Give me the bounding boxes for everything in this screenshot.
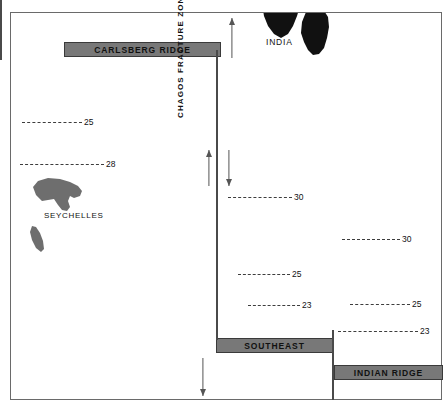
anomaly-label: 30 <box>294 193 303 202</box>
landmass-label-seychelles: SEYCHELLES <box>44 211 103 220</box>
ridge-bar-indian-ridge: INDIAN RIDGE <box>334 365 443 380</box>
anomaly-label: 23 <box>302 301 311 310</box>
tectonic-map-figure: CARLSBERG RIDGE SOUTHEAST INDIAN RIDGE C… <box>0 0 445 415</box>
anomaly-dash <box>350 304 410 305</box>
anomaly-dash <box>338 331 418 332</box>
anomaly-line-left-25: 25 <box>22 118 93 127</box>
anomaly-line-center-30: 30 <box>228 193 303 202</box>
anomaly-line-left-28: 28 <box>20 160 115 169</box>
arrow-up-north <box>228 18 236 58</box>
ridge-bar-carlsberg: CARLSBERG RIDGE <box>64 42 221 57</box>
anomaly-line-right-25: 25 <box>350 300 421 309</box>
ridge-bar-southeast: SOUTHEAST <box>216 338 333 353</box>
arrow-up-midline <box>205 150 213 186</box>
fracture-zone-label: CHAGOS FRACTURE ZONE <box>176 0 185 118</box>
anomaly-line-right-23: 23 <box>338 327 429 336</box>
anomaly-label: 23 <box>420 327 429 336</box>
anomaly-dash <box>342 239 400 240</box>
anomaly-line-center-23: 23 <box>248 301 311 310</box>
anomaly-dash <box>22 122 82 123</box>
landmass-label-india: INDIA <box>266 37 293 47</box>
ridge-label-southeast: SOUTHEAST <box>244 341 305 351</box>
anomaly-label: 25 <box>412 300 421 309</box>
fracture-zone-tick-bottom <box>0 22 2 60</box>
anomaly-dash <box>238 274 290 275</box>
anomaly-label: 28 <box>106 160 115 169</box>
anomaly-line-right-30: 30 <box>342 235 411 244</box>
anomaly-label: 25 <box>292 270 301 279</box>
arrow-down-midline <box>225 150 233 186</box>
ridge-label-indian-ridge: INDIAN RIDGE <box>354 368 423 378</box>
anomaly-label: 25 <box>84 118 93 127</box>
fracture-zone-line-step <box>332 330 334 400</box>
anomaly-dash <box>248 305 300 306</box>
arrow-down-bottom <box>199 358 207 396</box>
anomaly-label: 30 <box>402 235 411 244</box>
fracture-zone-tick-top <box>0 0 2 22</box>
anomaly-dash <box>20 164 104 165</box>
fracture-zone-line-main <box>216 50 218 340</box>
anomaly-dash <box>228 197 292 198</box>
anomaly-line-center-25: 25 <box>238 270 301 279</box>
